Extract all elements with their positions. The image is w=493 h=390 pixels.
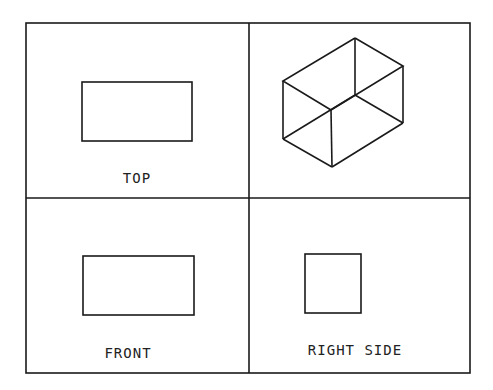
isometric-box — [283, 38, 403, 167]
right-side-label: RIGHT SIDE — [308, 342, 402, 358]
right-side-view-square — [305, 254, 361, 313]
front-view-rectangle — [83, 256, 194, 315]
top-view-rectangle — [82, 82, 192, 141]
front-label: FRONT — [104, 345, 151, 361]
top-label: TOP — [123, 170, 151, 186]
orthographic-drawing: TOP FRONT RIGHT SIDE — [0, 0, 493, 390]
